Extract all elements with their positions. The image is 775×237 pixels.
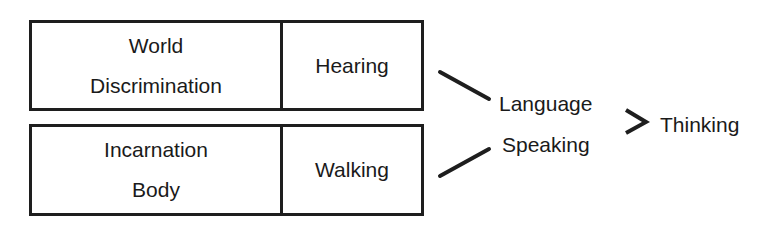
thinking-label: Thinking bbox=[660, 113, 739, 137]
speaking-label: Speaking bbox=[502, 133, 590, 157]
walking-to-speaking-line bbox=[440, 149, 489, 176]
connector-lines bbox=[0, 0, 775, 237]
hearing-to-language-line bbox=[440, 72, 489, 99]
language-label: Language bbox=[499, 92, 592, 116]
greater-than-arrow-icon bbox=[626, 110, 646, 133]
